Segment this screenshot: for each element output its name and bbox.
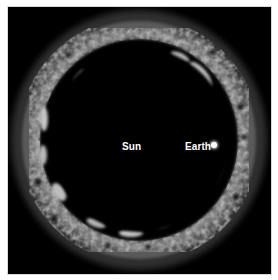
ring-inner-void	[50, 48, 230, 232]
sun-label: Sun	[122, 142, 141, 152]
earth-marker-icon	[211, 142, 217, 148]
dust-ring-image: Sun Earth	[8, 7, 271, 274]
earth-label: Earth	[185, 142, 211, 152]
